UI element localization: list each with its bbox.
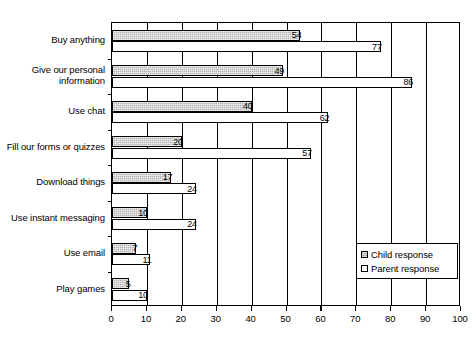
x-tick-mark-0	[111, 306, 112, 311]
bar-child: 40	[112, 101, 252, 112]
category-tick	[108, 165, 112, 166]
x-tick-label-0: 0	[108, 313, 113, 324]
bar-group: 57	[112, 148, 461, 159]
x-tick-label-30: 30	[211, 313, 221, 324]
bar-value-label: 40	[113, 102, 255, 111]
x-tick-mark-40	[251, 306, 252, 311]
bar-group: 17	[112, 172, 461, 183]
bar-value-label: 10	[113, 208, 150, 217]
bar-group: 24	[112, 219, 461, 230]
bar-child: 5	[112, 278, 129, 289]
bar-parent: 11	[112, 254, 150, 265]
x-tick-mark-30	[216, 306, 217, 311]
x-tick-label-40: 40	[245, 313, 255, 324]
bar-value-label: 11	[113, 255, 153, 264]
bar-group: 24	[112, 183, 461, 194]
category-tick	[108, 59, 112, 60]
bar-child: 10	[112, 207, 147, 218]
bar-parent: 24	[112, 219, 196, 230]
legend-label-parent: Parent response	[371, 263, 439, 274]
x-tick-label-90: 90	[420, 313, 430, 324]
bar-group: 62	[112, 112, 461, 123]
bar-parent: 62	[112, 112, 328, 123]
legend-label-child: Child response	[371, 249, 433, 260]
legend-swatch-parent-icon	[361, 265, 368, 272]
legend-item-child: Child response	[361, 247, 453, 261]
bar-value-label: 7	[113, 244, 139, 253]
x-tick-mark-100	[460, 306, 461, 311]
category-label-1: Give our personal information	[0, 64, 105, 86]
bar-child: 17	[112, 172, 171, 183]
bar-value-label: 24	[113, 184, 199, 193]
x-tick-mark-50	[286, 306, 287, 311]
x-tick-label-80: 80	[385, 313, 395, 324]
category-label-5: Use instant messaging	[0, 212, 105, 223]
x-tick-mark-70	[355, 306, 356, 311]
bar-value-label: 77	[113, 42, 384, 51]
bar-group: 86	[112, 77, 461, 88]
bar-group: 54	[112, 30, 461, 41]
legend-swatch-child-icon	[361, 251, 368, 258]
bar-child: 7	[112, 243, 136, 254]
bar-value-label: 10	[113, 291, 150, 300]
bar-child: 49	[112, 65, 283, 76]
bar-child: 54	[112, 30, 300, 41]
bar-value-label: 54	[113, 31, 303, 40]
bar-value-label: 49	[113, 66, 286, 75]
category-label-4: Download things	[0, 176, 105, 187]
bar-parent: 24	[112, 183, 196, 194]
category-tick	[108, 201, 112, 202]
bar-group: 10	[112, 290, 461, 301]
bar-value-label: 5	[113, 279, 132, 288]
bar-child: 20	[112, 136, 182, 147]
x-tick-mark-20	[181, 306, 182, 311]
x-tick-label-60: 60	[315, 313, 325, 324]
x-tick-label-10: 10	[141, 313, 151, 324]
category-label-6: Use email	[0, 247, 105, 258]
bar-parent: 10	[112, 290, 147, 301]
bar-parent: 77	[112, 41, 381, 52]
x-tick-mark-90	[425, 306, 426, 311]
x-tick-label-50: 50	[280, 313, 290, 324]
bar-parent: 86	[112, 77, 412, 88]
bar-group: 20	[112, 136, 461, 147]
category-label-2: Use chat	[0, 105, 105, 116]
bar-value-label: 86	[113, 78, 415, 87]
bar-chart: 547749864062205717241024711510 Buy anyth…	[0, 0, 476, 341]
bar-group: 5	[112, 278, 461, 289]
bar-group: 10	[112, 207, 461, 218]
category-tick	[108, 130, 112, 131]
chart-legend: Child response Parent response	[356, 243, 458, 279]
bar-group: 49	[112, 65, 461, 76]
bar-parent: 57	[112, 148, 311, 159]
category-label-3: Fill our forms or quizzes	[0, 141, 105, 152]
bar-group: 40	[112, 101, 461, 112]
bar-value-label: 57	[113, 149, 314, 158]
bar-value-label: 24	[113, 220, 199, 229]
category-label-0: Buy anything	[0, 34, 105, 45]
bar-value-label: 17	[113, 173, 174, 182]
x-tick-label-100: 100	[452, 313, 468, 324]
bar-value-label: 20	[113, 137, 185, 146]
x-tick-mark-10	[146, 306, 147, 311]
category-tick	[108, 94, 112, 95]
x-tick-label-70: 70	[350, 313, 360, 324]
x-tick-mark-60	[320, 306, 321, 311]
legend-item-parent: Parent response	[361, 261, 453, 275]
x-tick-mark-80	[390, 306, 391, 311]
category-tick	[108, 236, 112, 237]
category-label-7: Play games	[0, 283, 105, 294]
bar-value-label: 62	[113, 113, 331, 122]
x-tick-label-20: 20	[176, 313, 186, 324]
bar-group: 77	[112, 41, 461, 52]
category-tick	[108, 272, 112, 273]
